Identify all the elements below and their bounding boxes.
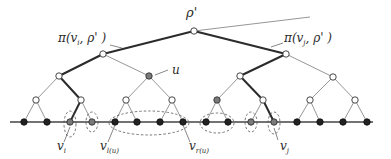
level3-node xyxy=(214,97,220,103)
leaf-node xyxy=(134,119,140,125)
edge-level3-to-leaf xyxy=(115,100,126,122)
edge-level1-to-level2 xyxy=(103,54,149,76)
label-vj: vj xyxy=(280,140,289,155)
edge-level2-to-level3 xyxy=(240,76,263,100)
root-node xyxy=(191,28,197,34)
edge-level2-to-level3 xyxy=(310,77,333,100)
path-right-tail: , ρ' ) xyxy=(306,31,332,45)
label-vl: vl(u) xyxy=(100,140,119,155)
leaf-node xyxy=(364,119,370,125)
edge-level1-to-level2 xyxy=(240,54,286,76)
vl-text: v xyxy=(100,139,107,153)
level2-node xyxy=(330,74,336,80)
edge-level3-to-leaf xyxy=(160,100,172,122)
dashed-groups xyxy=(64,111,280,137)
vj-sub: j xyxy=(287,147,289,155)
leaf-node xyxy=(225,119,231,125)
label-vr: vr(u) xyxy=(189,140,209,155)
level3-node xyxy=(352,97,358,103)
u-node xyxy=(146,73,152,79)
vi-sub: i xyxy=(64,147,66,155)
edge-level3-to-leaf xyxy=(206,100,217,122)
edge-level3-to-leaf xyxy=(263,100,274,122)
vi-text: v xyxy=(57,139,64,153)
label-root: ρ' xyxy=(186,6,197,19)
label-vi: vi xyxy=(57,140,66,155)
root-label: ρ' xyxy=(186,5,197,20)
edge-level1-to-level2 xyxy=(59,54,103,76)
pointer-vj xyxy=(274,128,278,140)
edge-level3-to-leaf xyxy=(172,100,183,122)
leaf-node xyxy=(203,119,209,125)
edge-level3-to-leaf xyxy=(355,100,367,122)
vl-sub: l(u) xyxy=(107,147,119,155)
pointer-path-right xyxy=(271,43,283,47)
pointer-path-left xyxy=(110,45,122,48)
leaf-node xyxy=(248,119,254,125)
level3-node xyxy=(307,97,313,103)
vj-text: v xyxy=(280,139,287,153)
level3-node xyxy=(78,97,84,103)
leaf-node xyxy=(294,119,300,125)
label-u: u xyxy=(172,64,180,76)
u-label: u xyxy=(172,63,180,77)
edge-level2-to-level3 xyxy=(36,76,59,100)
vr-text: v xyxy=(189,139,196,153)
path-left-tail: , ρ' ) xyxy=(80,31,106,45)
edge-root-to-level1 xyxy=(194,31,286,54)
label-path-left: π(vi, ρ' ) xyxy=(58,32,106,47)
level1-node xyxy=(283,51,289,57)
leaf-node xyxy=(317,119,323,125)
pointer-u xyxy=(155,70,168,75)
leaf-node xyxy=(89,119,95,125)
vr-sub: r(u) xyxy=(196,147,209,155)
label-path-right: π(vj, ρ' ) xyxy=(284,32,332,47)
edge-level2-to-level3 xyxy=(333,77,355,100)
edge-level3-to-leaf xyxy=(217,100,228,122)
edge-level2-to-level3 xyxy=(59,76,81,100)
level2-node xyxy=(237,73,243,79)
edge-level2-to-level3 xyxy=(126,76,149,100)
level3-node xyxy=(123,97,129,103)
leaf-node-vru xyxy=(180,119,186,125)
edge-level3-to-leaf xyxy=(24,100,36,122)
edge-level3-to-leaf xyxy=(297,100,310,122)
edge-level3-to-leaf xyxy=(343,100,355,122)
edge-level3-to-leaf xyxy=(36,100,47,122)
level1-node xyxy=(100,51,106,57)
tree-diagram xyxy=(0,0,391,159)
level3-node xyxy=(260,97,266,103)
edge-level2-to-level3 xyxy=(217,76,240,100)
edge-level2-to-level3 xyxy=(149,76,172,100)
leaf-node xyxy=(44,119,50,125)
group-u-subtree xyxy=(109,111,189,135)
leaf-node-vj xyxy=(271,119,277,125)
path-left-text: π(v xyxy=(58,31,77,45)
level2-node xyxy=(56,73,62,79)
edge-level3-to-leaf xyxy=(126,100,137,122)
level3-node xyxy=(169,97,175,103)
leaf-node-vi xyxy=(67,119,73,125)
leaf-node xyxy=(157,119,163,125)
level3-node xyxy=(33,97,39,103)
edge-root-to-level1 xyxy=(103,31,194,54)
path-right-text: π(v xyxy=(284,31,303,45)
leaf-node xyxy=(340,119,346,125)
root-extension-line xyxy=(194,17,310,31)
edge-level1-to-level2 xyxy=(286,54,333,77)
leaf-node-vlu xyxy=(112,119,118,125)
leaf-node xyxy=(21,119,27,125)
